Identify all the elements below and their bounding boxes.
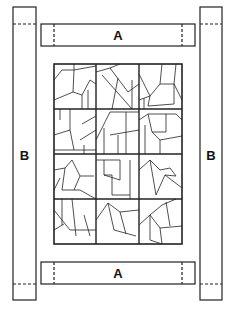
left-strip-label: B <box>20 148 29 163</box>
quilt-diagram: A A B B <box>0 0 226 310</box>
quilt-center <box>54 64 182 244</box>
right-strip-label: B <box>206 148 215 163</box>
top-strip-label: A <box>113 28 123 43</box>
bottom-strip-label: A <box>113 266 123 281</box>
